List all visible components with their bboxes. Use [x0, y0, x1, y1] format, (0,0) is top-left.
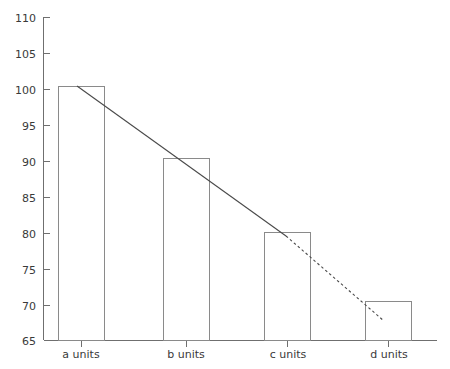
y-axis-group: 110 105 100 95 90 85 80 75 70 65: [15, 12, 50, 348]
bar-a-units: [59, 87, 105, 341]
bars-group: [59, 87, 412, 341]
x-tick-label-a-units: a units: [62, 348, 100, 361]
chart-container: 110 105 100 95 90 85 80 75 70 65 a u: [0, 0, 450, 369]
y-tick-label-85: 85: [22, 192, 36, 205]
y-tick-label-90: 90: [22, 156, 36, 169]
x-axis-group: a units b units c units d units: [44, 341, 438, 362]
bar-c-units: [265, 233, 311, 341]
y-tick-labels: 110 105 100 95 90 85 80 75 70 65: [15, 12, 36, 348]
y-tick-label-105: 105: [15, 48, 36, 61]
x-tick-marks: [82, 341, 389, 347]
bar-chart-with-trendline: 110 105 100 95 90 85 80 75 70 65 a u: [0, 0, 450, 369]
x-tick-labels: a units b units c units d units: [62, 348, 408, 361]
bar-d-units: [366, 302, 412, 341]
y-tick-label-65: 65: [22, 335, 36, 348]
x-tick-label-c-units: c units: [270, 348, 307, 361]
y-tick-label-110: 110: [15, 12, 36, 25]
x-tick-label-b-units: b units: [167, 348, 205, 361]
y-tick-label-100: 100: [15, 84, 36, 97]
y-tick-label-80: 80: [22, 228, 36, 241]
y-tick-label-70: 70: [22, 300, 36, 313]
y-tick-marks: [44, 18, 50, 341]
x-tick-label-d-units: d units: [370, 348, 408, 361]
y-tick-label-95: 95: [22, 120, 36, 133]
bar-b-units: [164, 159, 210, 341]
trend-line-group: [77, 86, 384, 321]
y-tick-label-75: 75: [22, 264, 36, 277]
